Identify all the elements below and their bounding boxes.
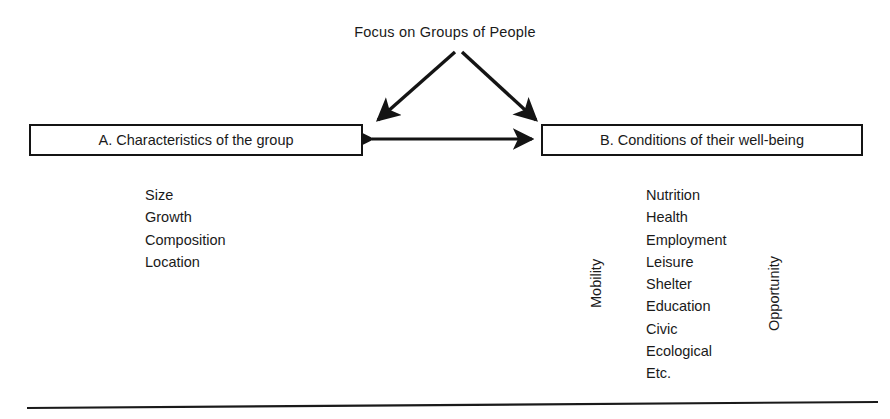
list-item: Education <box>646 295 727 317</box>
list-characteristics: Size Growth Composition Location <box>145 184 226 273</box>
box-characteristics-label: A. Characteristics of the group <box>98 132 293 148</box>
list-item: Leisure <box>646 251 727 273</box>
list-item: Health <box>646 206 727 228</box>
list-item: Etc. <box>646 362 727 384</box>
diagram-line-art <box>0 0 890 419</box>
list-item: Ecological <box>646 340 727 362</box>
box-characteristics: A. Characteristics of the group <box>29 124 363 156</box>
list-item: Civic <box>646 318 727 340</box>
caption-opportunity: Opportunity <box>766 256 782 331</box>
list-item: Composition <box>145 229 226 251</box>
list-conditions: Nutrition Health Employment Leisure Shel… <box>646 184 727 385</box>
list-item: Employment <box>646 229 727 251</box>
diagram-canvas: Focus on Groups of People A. Characteris… <box>0 0 890 419</box>
box-conditions: B. Conditions of their well-being <box>541 124 863 156</box>
list-item: Growth <box>145 206 226 228</box>
list-item: Size <box>145 184 226 206</box>
box-conditions-label: B. Conditions of their well-being <box>600 132 804 148</box>
diagram-title: Focus on Groups of People <box>0 24 890 40</box>
footer-rule <box>27 402 878 408</box>
list-item: Shelter <box>646 273 727 295</box>
arrow-fork-right <box>462 52 536 120</box>
list-item: Nutrition <box>646 184 727 206</box>
list-item: Location <box>145 251 226 273</box>
caption-mobility: Mobility <box>588 259 604 308</box>
arrow-fork-left <box>378 52 455 120</box>
